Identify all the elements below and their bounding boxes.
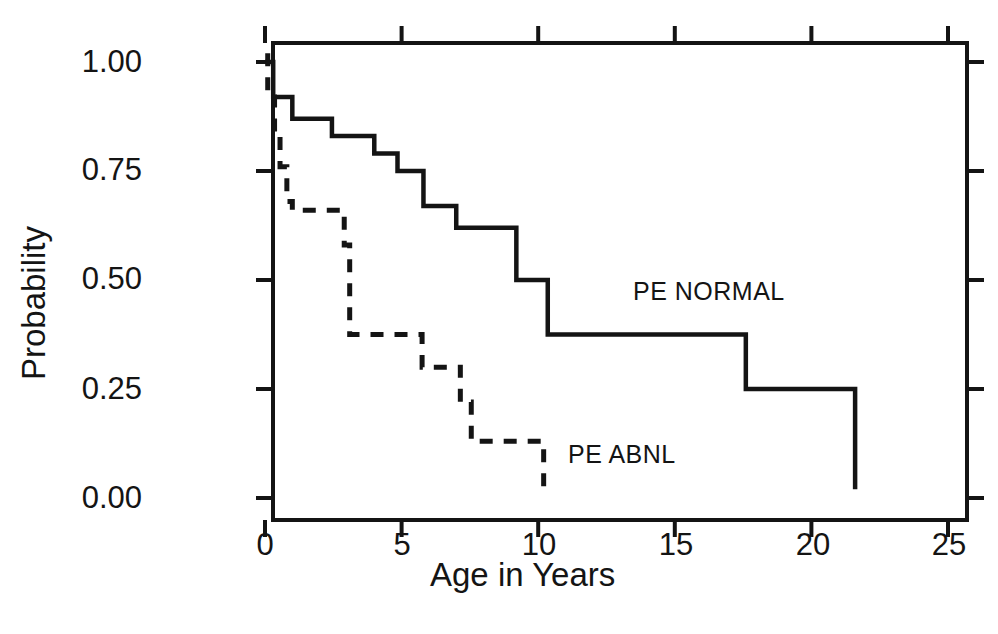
series-label-pe-abnl: PE ABNL (568, 440, 676, 469)
plot-canvas (0, 0, 998, 634)
x-tick-label-15: 15 (641, 527, 711, 563)
series-path-pe-normal (265, 62, 855, 489)
x-tick-label-20: 20 (778, 527, 848, 563)
y-tick-label-0-00: 0.00 (0, 480, 142, 516)
survival-curve-figure: Probability Age in Years 1.00 0.75 0.50 … (0, 0, 998, 634)
series-lines (265, 53, 855, 493)
series-label-pe-normal: PE NORMAL (633, 277, 785, 306)
x-tick-label-5: 5 (367, 527, 437, 563)
y-tick-label-1-00: 1.00 (0, 44, 142, 80)
y-tick-label-0-75: 0.75 (0, 152, 142, 188)
x-tick-label-0: 0 (230, 527, 300, 563)
y-tick-label-0-25: 0.25 (0, 371, 142, 407)
y-tick-label-0-50: 0.50 (0, 261, 142, 297)
x-tick-label-25: 25 (914, 527, 984, 563)
x-tick-label-10: 10 (504, 527, 574, 563)
